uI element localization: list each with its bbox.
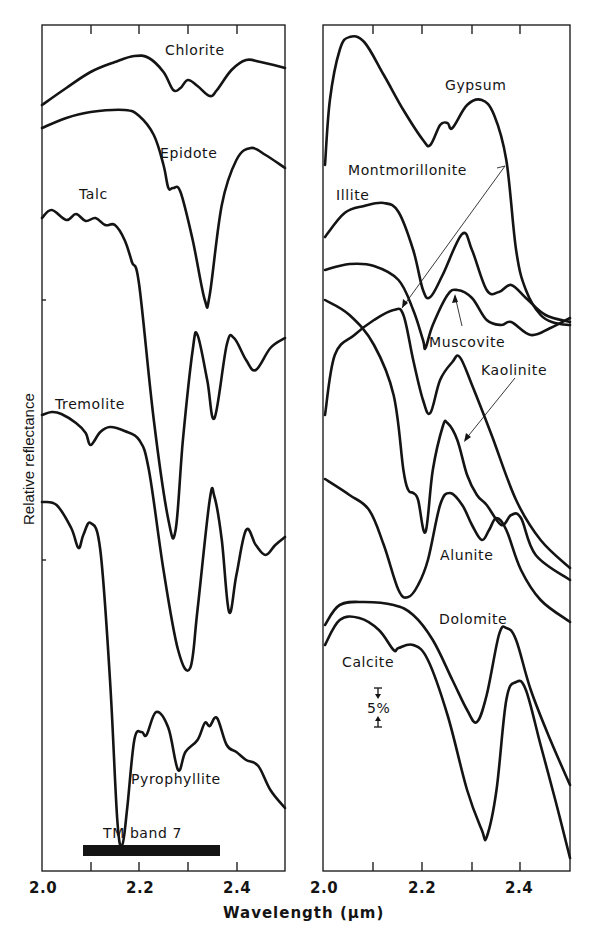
spectra-figure: Relative reflectance Chlorite Epidote Ta… bbox=[0, 0, 593, 937]
right-tick-2.2: 2.2 bbox=[408, 879, 436, 897]
curve-pyrophyllite bbox=[42, 502, 285, 846]
scale-bar: 5% bbox=[367, 688, 390, 727]
label-epidote: Epidote bbox=[160, 145, 217, 161]
muscovite-arrowhead bbox=[452, 294, 458, 303]
leader-lines bbox=[402, 166, 515, 442]
right-curves bbox=[325, 36, 570, 858]
label-chlorite: Chlorite bbox=[165, 42, 225, 58]
curve-epidote bbox=[42, 110, 285, 308]
right-tick-2.4: 2.4 bbox=[505, 879, 533, 897]
label-pyrophyllite: Pyrophyllite bbox=[131, 771, 221, 787]
left-tick-2.4: 2.4 bbox=[223, 879, 251, 897]
y-axis-label: Relative reflectance bbox=[20, 393, 37, 525]
label-alunite: Alunite bbox=[440, 547, 493, 563]
label-talc: Talc bbox=[78, 186, 108, 202]
curve-calcite bbox=[325, 616, 570, 858]
left-tick-2.0: 2.0 bbox=[29, 879, 57, 897]
label-muscovite: Muscovite bbox=[429, 334, 505, 350]
curve-talc bbox=[42, 210, 285, 538]
label-kaolinite: Kaolinite bbox=[481, 362, 547, 378]
curve-dolomite bbox=[325, 602, 570, 785]
montmorillonite-leader bbox=[402, 166, 505, 308]
tm-band-bar bbox=[83, 845, 220, 856]
label-tremolite: Tremolite bbox=[54, 396, 125, 412]
x-axis-label: Wavelength (µm) bbox=[223, 904, 384, 922]
curve-chlorite bbox=[42, 56, 285, 105]
label-gypsum: Gypsum bbox=[445, 77, 506, 93]
right-panel-ticks bbox=[373, 25, 520, 871]
left-tick-2.2: 2.2 bbox=[126, 879, 154, 897]
right-tick-2.0: 2.0 bbox=[310, 879, 338, 897]
tm-band-label: TM band 7 bbox=[102, 825, 182, 841]
scale-bar-label: 5% bbox=[367, 700, 390, 716]
label-calcite: Calcite bbox=[342, 654, 394, 670]
label-dolomite: Dolomite bbox=[439, 611, 507, 627]
right-panel: Gypsum Montmorillonite Illite Muscovite … bbox=[310, 25, 570, 897]
right-panel-frame bbox=[323, 25, 570, 871]
curve-illite bbox=[325, 203, 570, 322]
left-panel: Chlorite Epidote Talc Tremolite Pyrophyl… bbox=[29, 25, 285, 897]
curve-tremolite bbox=[42, 412, 285, 671]
label-illite: Illite bbox=[336, 187, 370, 203]
left-curves bbox=[42, 56, 285, 846]
label-montmorillonite: Montmorillonite bbox=[348, 162, 467, 178]
